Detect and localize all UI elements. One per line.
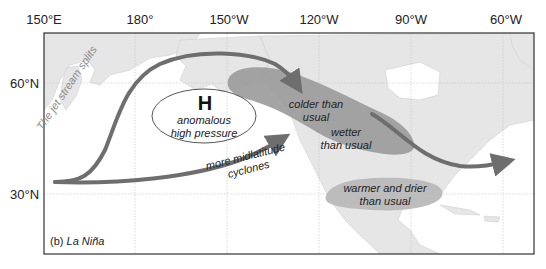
panel-label: (b) [50, 235, 63, 247]
high-pressure-label-line1: anomalous [152, 114, 256, 127]
panel-caption: (b) La Niña [50, 235, 104, 247]
warmer-label-line2: than usual [330, 195, 440, 208]
wetter-label-line2: than usual [306, 139, 386, 152]
high-pressure-label-line2: high pressure [152, 127, 256, 140]
panel-title: La Niña [67, 235, 105, 247]
la-nina-map [0, 0, 546, 269]
colder-label-line1: colder than [276, 98, 356, 111]
high-pressure-symbol: H [191, 92, 219, 115]
land-hispaniola [484, 216, 500, 222]
wetter-label-line1: wetter [306, 126, 386, 139]
colder-label-line2: usual [276, 111, 356, 124]
warmer-label-line1: warmer and drier [330, 182, 440, 195]
